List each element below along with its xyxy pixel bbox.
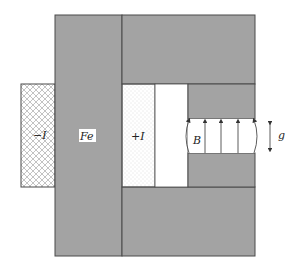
iron-top-arm — [122, 15, 255, 84]
label-field-b: B — [192, 134, 201, 147]
label-minus-current: −I — [33, 129, 47, 142]
upper-pole-piece — [188, 84, 255, 119]
label-gap-g: g — [278, 129, 285, 142]
electromagnet-diagram: −I Fe +I B g — [0, 0, 296, 266]
label-plus-current: +I — [131, 130, 145, 143]
label-iron: Fe — [79, 130, 94, 143]
window-space — [155, 84, 188, 187]
lower-pole-piece — [188, 153, 255, 187]
iron-bottom-arm — [122, 187, 255, 256]
